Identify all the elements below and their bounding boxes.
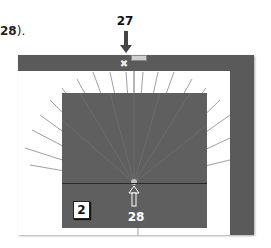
callout-28-label: 28 [124, 210, 148, 224]
arrow-down-icon [120, 31, 132, 53]
arrow-up-icon [129, 186, 139, 206]
step-badge: 2 [73, 201, 90, 219]
